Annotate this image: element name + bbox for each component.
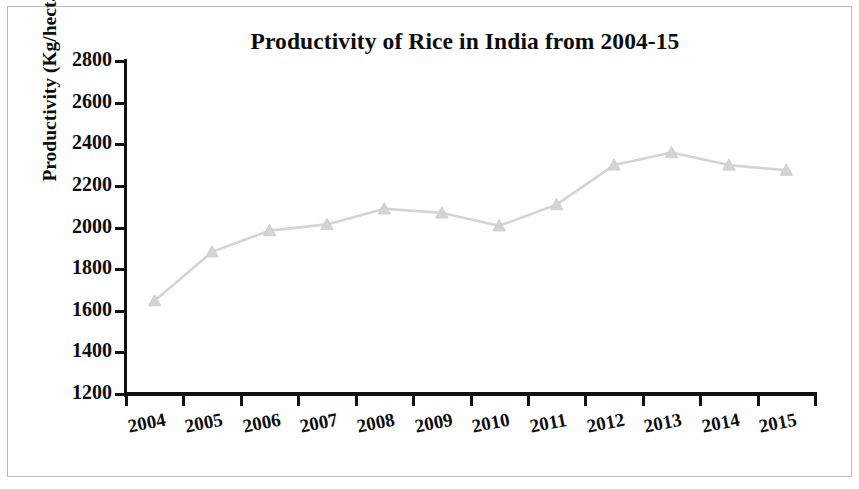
- series-data-point: [378, 203, 390, 214]
- x-axis-tick: [814, 395, 817, 406]
- x-axis-tick-label: 2004: [126, 409, 167, 438]
- y-axis-tick: [115, 393, 125, 396]
- y-axis-tick: [115, 102, 125, 105]
- x-axis-tick: [757, 395, 760, 406]
- y-axis-tick-label: 2600: [46, 90, 112, 113]
- y-axis-tick: [115, 310, 125, 313]
- y-axis-tick-label: 1400: [46, 339, 112, 362]
- x-axis-tick: [412, 395, 415, 406]
- y-axis-tick-label: 2400: [46, 131, 112, 154]
- x-axis-tick: [125, 395, 128, 406]
- figure-border: [7, 6, 852, 477]
- x-axis-tick-label: 2005: [183, 409, 224, 438]
- series-data-point: [149, 295, 161, 306]
- series-data-point: [321, 218, 333, 229]
- series-data-point: [493, 220, 505, 231]
- series-data-point: [780, 164, 792, 175]
- y-axis-tick-label-wrap: 2600: [42, 90, 112, 114]
- x-axis-tick-label: 2008: [355, 409, 396, 438]
- y-axis-tick-label: 1600: [46, 298, 112, 321]
- x-axis-tick-label: 2013: [642, 409, 683, 438]
- y-axis-tick-label: 2200: [46, 173, 112, 196]
- y-axis-tick-label-wrap: 1400: [42, 339, 112, 363]
- x-axis-tick-label: 2010: [470, 409, 511, 438]
- series-data-point: [608, 159, 620, 170]
- y-axis-title: Productivity (Kg/hectare): [35, 0, 65, 245]
- y-axis-tick-label-wrap: 2800: [42, 48, 112, 72]
- y-axis-tick-label-wrap: 2400: [42, 131, 112, 155]
- x-axis-tick: [182, 395, 185, 406]
- y-axis-tick-label-wrap: 2000: [42, 215, 112, 239]
- series-data-point: [550, 198, 562, 209]
- y-axis-tick-label-wrap: 2200: [42, 173, 112, 197]
- x-axis-tick: [527, 395, 530, 406]
- x-axis-tick: [699, 395, 702, 406]
- y-axis-tick: [115, 227, 125, 230]
- series-data-point: [665, 146, 677, 157]
- y-axis-tick-label-wrap: 1600: [42, 298, 112, 322]
- series-data-point: [723, 159, 735, 170]
- y-axis-tick-label: 2800: [46, 48, 112, 71]
- y-axis-tick-label: 2000: [46, 215, 112, 238]
- y-axis-tick: [115, 60, 125, 63]
- series-data-point: [263, 224, 275, 235]
- chart-title: Productivity of Rice in India from 2004-…: [150, 28, 780, 55]
- y-axis-tick-label-wrap: 1200: [42, 381, 112, 405]
- x-axis-tick-label: 2009: [413, 409, 454, 438]
- x-axis-tick-label: 2012: [585, 409, 626, 438]
- chart-figure: Productivity of Rice in India from 2004-…: [0, 0, 859, 489]
- x-axis-tick: [642, 395, 645, 406]
- y-axis-tick: [115, 351, 125, 354]
- x-axis-tick: [470, 395, 473, 406]
- y-axis-tick-label-wrap: 1800: [42, 256, 112, 280]
- y-axis-tick: [115, 268, 125, 271]
- x-axis-tick-label: 2011: [528, 409, 568, 438]
- series-data-point: [206, 246, 218, 257]
- y-axis-tick-label: 1800: [46, 256, 112, 279]
- x-axis-tick-label: 2007: [298, 409, 339, 438]
- x-axis-tick: [297, 395, 300, 406]
- y-axis-tick-label: 1200: [46, 381, 112, 404]
- x-axis-tick: [355, 395, 358, 406]
- series-markers-productivity: [149, 146, 793, 305]
- x-axis-tick: [240, 395, 243, 406]
- series-line-productivity: [155, 153, 787, 301]
- x-axis-tick-label: 2006: [241, 409, 282, 438]
- series-data-point: [436, 207, 448, 218]
- x-axis-tick-label: 2014: [700, 409, 741, 438]
- y-axis-tick: [115, 185, 125, 188]
- y-axis-tick: [115, 143, 125, 146]
- x-axis-tick: [584, 395, 587, 406]
- x-axis-tick-label: 2015: [757, 409, 798, 438]
